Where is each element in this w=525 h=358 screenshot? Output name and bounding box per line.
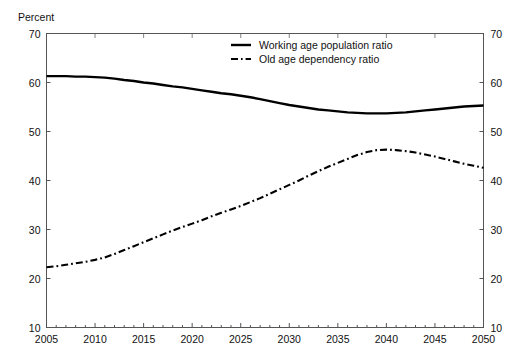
chart-container: Percent 10203040506070 10203040506070 20… xyxy=(0,0,525,358)
chart-legend: Working age population ratio Old age dep… xyxy=(230,38,430,66)
y-axis-right-tick-label: 50 xyxy=(491,126,517,138)
x-axis-tick-label: 2050 xyxy=(464,333,504,345)
y-axis-right-tick-label: 30 xyxy=(491,224,517,236)
y-axis-right-tick-label: 60 xyxy=(491,77,517,89)
legend-item-working-age: Working age population ratio xyxy=(230,38,430,51)
x-axis-tick-label: 2015 xyxy=(124,333,164,345)
solid-line-icon xyxy=(230,39,252,51)
legend-label-working-age: Working age population ratio xyxy=(259,39,392,51)
y-axis-left-tick-label: 60 xyxy=(15,77,41,89)
y-axis-left-tick-label: 70 xyxy=(15,28,41,40)
x-axis-tick-label: 2005 xyxy=(27,333,67,345)
x-axis-tick-label: 2025 xyxy=(221,333,261,345)
x-axis-tick-label: 2010 xyxy=(75,333,115,345)
y-axis-left-tick-label: 50 xyxy=(15,126,41,138)
x-axis-tick-label: 2020 xyxy=(172,333,212,345)
y-axis-right-tick-label: 70 xyxy=(491,28,517,40)
data-series-line xyxy=(47,150,484,268)
y-axis-left-tick-label: 30 xyxy=(15,224,41,236)
x-axis-tick-label: 2030 xyxy=(269,333,309,345)
data-series-line xyxy=(47,76,484,113)
x-axis-tick-label: 2035 xyxy=(318,333,358,345)
y-axis-left-tick-label: 40 xyxy=(15,175,41,187)
y-axis-right-tick-label: 20 xyxy=(491,273,517,285)
legend-item-old-age: Old age dependency ratio xyxy=(230,52,430,65)
y-axis-right-tick-label: 40 xyxy=(491,175,517,187)
dashdot-line-icon xyxy=(230,53,252,65)
x-axis-tick-label: 2040 xyxy=(366,333,406,345)
x-axis-tick-label: 2045 xyxy=(415,333,455,345)
y-axis-left-tick-label: 20 xyxy=(15,273,41,285)
legend-label-old-age: Old age dependency ratio xyxy=(259,53,379,65)
